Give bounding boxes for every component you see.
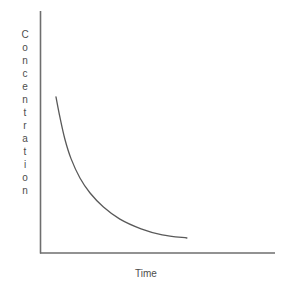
y-axis-label-letter: o [22, 41, 28, 54]
y-axis-label-letter: t [24, 106, 27, 119]
y-axis-label-letter: n [22, 93, 28, 106]
y-axis-label-letter: n [22, 54, 28, 67]
x-axis-label: Time [0, 268, 292, 279]
y-axis-label-letter: o [22, 171, 28, 184]
y-axis-label-letter: a [22, 132, 28, 145]
concentration-decay-curve [56, 97, 187, 238]
y-axis-label-letter: t [24, 145, 27, 158]
y-axis-label-letter: r [23, 119, 26, 132]
y-axis-label: C o n c e n t r a t i o n [16, 28, 34, 197]
y-axis-label-letter: e [22, 80, 28, 93]
y-axis-label-letter: c [23, 67, 28, 80]
y-axis-label-letter: i [24, 158, 26, 171]
chart-figure: C o n c e n t r a t i o n Time [0, 0, 292, 295]
y-axis-label-letter: C [21, 28, 28, 41]
plot-area [0, 0, 292, 295]
y-axis-label-letter: n [22, 184, 28, 197]
